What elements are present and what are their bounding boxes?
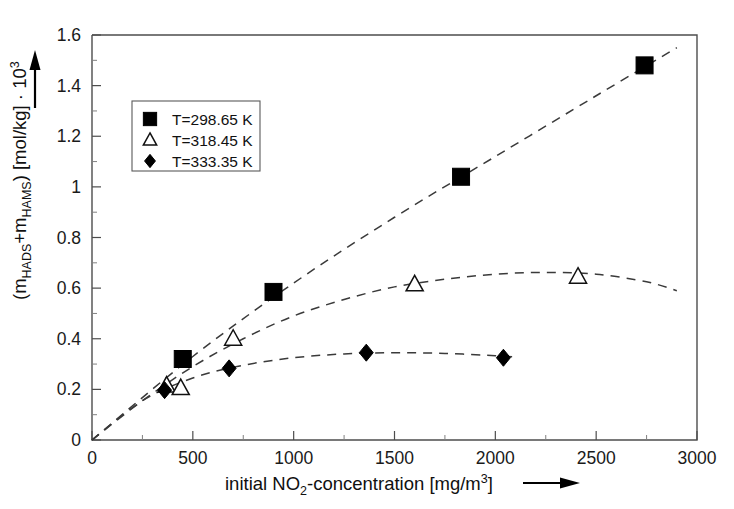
x-axis-ticks: 050010001500200025003000 [87,431,717,468]
x-tick-label: 0 [87,448,97,468]
y-tick-label: 0.8 [57,228,81,248]
y-title-sub-hams: HAMS [20,181,34,217]
legend-label-1: T=318.45 K [172,132,253,149]
legend-label-0: T=298.65 K [172,111,253,128]
x-tick-label: 1000 [274,448,313,468]
x-tick-label: 1500 [375,448,414,468]
x-title-mid: -concentration [mg/m [307,473,481,494]
x-title-prefix: initial NO [225,473,300,494]
data-point-series-1 [569,268,586,283]
x-title-sup: 3 [481,472,488,486]
data-point-series-1 [225,330,242,345]
y-axis-arrow-icon [30,50,41,108]
x-axis-title: initial NO2-concentration [mg/m3] [225,472,493,498]
data-point-series-0 [174,351,191,368]
y-title-plus: +m [9,217,30,243]
y-title-open: (m [9,278,30,300]
svg-text:initial NO2-concentration [mg/: initial NO2-concentration [mg/m3] [225,472,493,498]
x-title-sub: 2 [300,484,307,498]
plot-frame [92,35,697,440]
y-tick-label: 0.4 [57,329,82,349]
y-tick-label: 0.6 [57,278,81,298]
svg-text:(mHADS+mHAMS) [mol/kg] · 103: (mHADS+mHAMS) [mol/kg] · 103 [8,61,34,300]
data-point-series-0 [453,168,470,185]
y-title-sub-hads: HADS [20,244,34,279]
y-tick-label: 1.6 [57,25,81,45]
adsorption-scatter-chart: 00.20.40.60.811.21.41.6 0500100015002000… [0,0,734,509]
y-axis-title: (mHADS+mHAMS) [mol/kg] · 103 [8,61,34,300]
y-tick-label: 1.2 [57,126,81,146]
x-tick-label: 2000 [476,448,515,468]
legend: T=298.65 KT=318.45 KT=333.35 K [132,101,260,171]
data-point-series-0 [265,283,282,300]
y-title-sup: 3 [8,61,22,68]
y-tick-label: 0 [71,430,81,450]
y-axis-ticks: 00.20.40.60.811.21.41.6 [57,25,101,450]
data-point-series-1 [172,379,189,394]
y-tick-label: 1 [71,177,81,197]
x-tick-label: 500 [178,448,207,468]
legend-marker-0 [143,112,156,125]
x-tick-label: 3000 [678,448,717,468]
x-title-suffix: ] [488,473,493,494]
fit-curve-series-2 [92,353,516,440]
y-tick-label: 1.4 [57,76,82,96]
y-tick-label: 0.2 [57,379,81,399]
data-point-series-2 [359,344,373,361]
figure-container: 00.20.40.60.811.21.41.6 0500100015002000… [0,0,734,509]
data-point-series-2 [496,349,510,366]
data-point-series-2 [222,360,236,377]
legend-label-2: T=333.35 K [172,153,253,170]
y-title-close: ) [mol/kg] · 10 [9,68,30,181]
data-point-series-0 [636,57,653,74]
x-axis-arrow-icon [523,478,580,489]
x-tick-label: 2500 [577,448,616,468]
